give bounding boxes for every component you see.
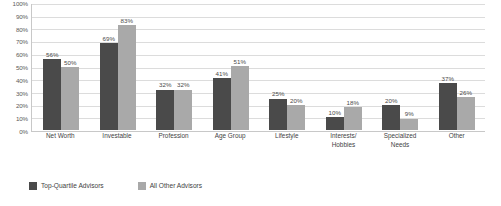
bar-value-label: 37% [442,76,454,82]
plot-wrapper: 100%90%80%70%60%50%40%30%20%10%0% 56%50%… [0,4,501,144]
bar-group: 20%9% [372,4,429,130]
y-axis-tick-label: 60% [16,52,28,58]
bar[interactable]: 9% [400,119,418,130]
x-axis-category-label: Net Worth [32,132,89,149]
bar-value-label: 32% [159,82,171,88]
x-axis-category-label: Other [428,132,485,149]
y-axis-tick-label: 40% [16,78,28,84]
y-axis-tick-label: 10% [16,116,28,122]
bar-group: 25%20% [259,4,316,130]
y-axis-tick-label: 100% [13,1,28,7]
legend-swatch-icon [138,182,146,190]
bar[interactable]: 10% [326,117,344,130]
x-axis-category-label: SpecializedNeeds [372,132,429,149]
bar[interactable]: 37% [439,83,457,130]
bar[interactable]: 20% [287,105,305,130]
x-axis-category-label: Interests/Hobbies [315,132,372,149]
bar-value-label: 25% [272,91,284,97]
y-axis-tick-label: 30% [16,90,28,96]
bar-value-label: 83% [121,18,133,24]
bar[interactable]: 32% [156,90,174,130]
bar-value-label: 9% [405,111,414,117]
bar[interactable]: 18% [344,107,362,130]
bar-group: 32%32% [146,4,203,130]
bar[interactable]: 56% [43,59,61,130]
legend-label: Top-Quartile Advisors [41,183,104,190]
bar[interactable]: 69% [100,43,118,130]
bar-value-label: 18% [347,100,359,106]
y-axis: 100%90%80%70%60%50%40%30%20%10%0% [0,4,30,132]
bar[interactable]: 50% [61,67,79,130]
legend-swatch-icon [29,182,37,190]
bars-layer: 56%50%69%83%32%32%41%51%25%20%10%18%20%9… [33,4,485,130]
bar-chart: 100%90%80%70%60%50%40%30%20%10%0% 56%50%… [0,0,501,206]
bar-value-label: 69% [103,36,115,42]
bar[interactable]: 51% [231,66,249,130]
plot-area: 56%50%69%83%32%32%41%51%25%20%10%18%20%9… [31,4,485,132]
x-axis-category-label: Investable [89,132,146,149]
legend-item[interactable]: Top-Quartile Advisors [29,182,104,190]
bar-value-label: 10% [329,110,341,116]
y-axis-tick-label: 50% [16,65,28,71]
bar-group: 69%83% [90,4,147,130]
bar-group: 37%26% [429,4,486,130]
bar[interactable]: 20% [382,105,400,130]
bar-value-label: 20% [290,98,302,104]
bar[interactable]: 83% [118,25,136,130]
x-axis-category-label: Lifestyle [259,132,316,149]
bar[interactable]: 32% [174,90,192,130]
y-axis-tick-label: 20% [16,103,28,109]
bar-group: 56%50% [33,4,90,130]
bar[interactable]: 41% [213,78,231,130]
x-axis-category-label: Age Group [202,132,259,149]
y-axis-tick-label: 70% [16,39,28,45]
bar-value-label: 50% [64,60,76,66]
y-axis-tick-label: 90% [16,14,28,20]
x-axis-category-labels: Net WorthInvestableProfessionAge GroupLi… [32,132,485,149]
legend-label: All Other Advisors [150,183,202,190]
bar-value-label: 20% [385,98,397,104]
bar-value-label: 32% [177,82,189,88]
legend-item[interactable]: All Other Advisors [138,182,202,190]
bar-group: 10%18% [316,4,373,130]
bar[interactable]: 26% [457,97,475,130]
bar-group: 41%51% [203,4,260,130]
y-axis-tick-label: 0% [19,129,28,135]
bar-value-label: 51% [234,59,246,65]
y-axis-tick-label: 80% [16,26,28,32]
bar-value-label: 26% [460,90,472,96]
bar-value-label: 41% [216,71,228,77]
legend: Top-Quartile AdvisorsAll Other Advisors [29,182,202,190]
bar[interactable]: 25% [269,99,287,131]
x-axis-category-label: Profession [145,132,202,149]
bar-value-label: 56% [46,52,58,58]
